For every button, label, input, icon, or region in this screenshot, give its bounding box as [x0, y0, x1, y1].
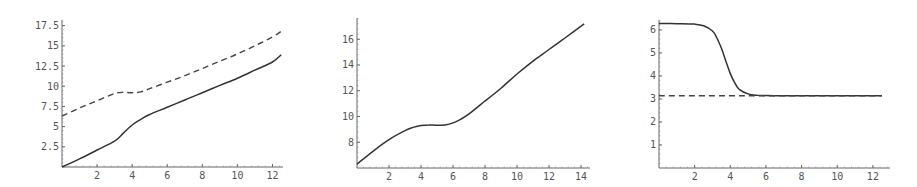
x-tick-label: 12	[867, 171, 879, 182]
x-tick-label: 4	[418, 171, 424, 182]
x-tick-label: 4	[129, 170, 135, 181]
y-tick-label: 16	[342, 34, 354, 45]
y-tick-label: 8	[348, 137, 354, 148]
y-tick-label: 1	[650, 139, 656, 150]
y-tick-label: 15	[47, 40, 59, 51]
y-tick-label: 14	[342, 59, 354, 70]
series-solid-line	[659, 24, 882, 96]
y-tick-label: 2.5	[41, 141, 59, 152]
y-tick-label: 4	[650, 70, 656, 81]
chart-panel-1: 246810122.557.51012.51517.5	[35, 20, 283, 181]
y-tick-label: 2	[650, 116, 656, 127]
y-tick-label: 17.5	[35, 20, 59, 31]
x-tick-label: 12	[543, 171, 555, 182]
x-tick-label: 4	[727, 171, 733, 182]
series-solid-line	[62, 55, 281, 167]
x-tick-label: 8	[199, 170, 205, 181]
x-tick-label: 6	[763, 171, 769, 182]
x-tick-label: 6	[450, 171, 456, 182]
x-tick-label: 8	[482, 171, 488, 182]
x-tick-label: 2	[386, 171, 392, 182]
y-tick-label: 7.5	[41, 101, 59, 112]
x-tick-label: 10	[831, 171, 843, 182]
x-tick-label: 10	[231, 170, 243, 181]
x-tick-label: 8	[799, 171, 805, 182]
y-tick-label: 12	[342, 85, 354, 96]
x-tick-label: 14	[575, 171, 587, 182]
y-tick-label: 10	[342, 111, 354, 122]
y-tick-label: 12.5	[35, 61, 59, 72]
x-tick-label: 12	[266, 170, 278, 181]
y-tick-label: 5	[650, 47, 656, 58]
x-tick-label: 6	[164, 170, 170, 181]
x-tick-label: 2	[692, 171, 698, 182]
y-tick-label: 6	[650, 24, 656, 35]
x-tick-label: 2	[94, 170, 100, 181]
figure-three-panels: 246810122.557.51012.51517.5 246810121481…	[0, 0, 917, 187]
chart-panel-2: 2468101214810121416	[342, 18, 590, 182]
y-tick-label: 5	[53, 121, 59, 132]
chart-panel-3: 24681012123456	[650, 20, 890, 182]
y-tick-label: 3	[650, 93, 656, 104]
y-tick-label: 10	[47, 81, 59, 92]
x-tick-label: 10	[511, 171, 523, 182]
series-solid-line	[357, 24, 584, 164]
